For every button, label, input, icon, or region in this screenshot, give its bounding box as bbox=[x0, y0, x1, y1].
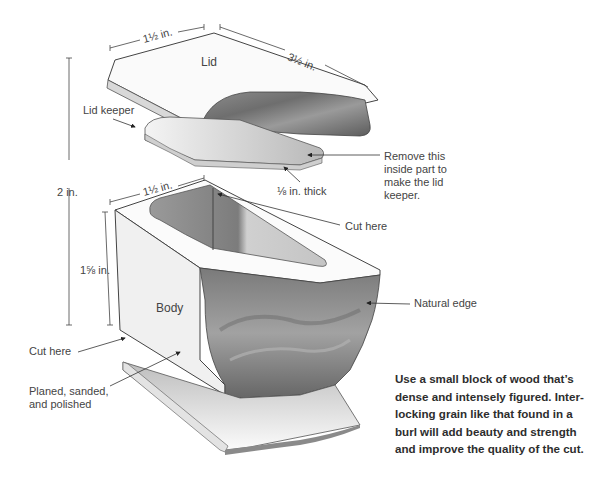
cut-here-bottom-callout: Cut here bbox=[29, 345, 71, 358]
caption-text: Use a small block of wood that’s dense a… bbox=[395, 370, 610, 458]
planed-sanded-callout: Planed, sanded, and polished bbox=[29, 385, 129, 411]
lid-keeper-label: Lid keeper bbox=[83, 104, 134, 117]
keeper-thickness-dimension: ⅛ in. thick bbox=[277, 185, 327, 198]
natural-edge-callout: Natural edge bbox=[414, 297, 477, 310]
overall-height-dimension: 2 in. bbox=[57, 186, 78, 199]
lid-label: Lid bbox=[201, 56, 217, 69]
remove-inside-callout: Remove this inside part to make the lid … bbox=[384, 150, 484, 202]
cut-here-top-callout: Cut here bbox=[345, 220, 387, 233]
body-label: Body bbox=[156, 302, 183, 315]
body-height-dimension: 1⅝ in. bbox=[80, 264, 110, 277]
body-part bbox=[115, 180, 380, 398]
